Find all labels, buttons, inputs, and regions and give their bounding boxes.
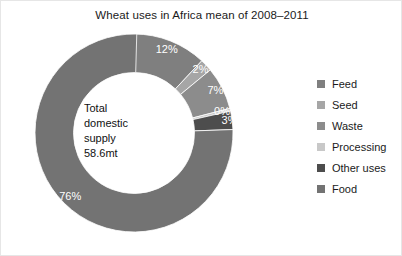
- legend-item[interactable]: Feed: [317, 73, 402, 94]
- legend-item-label: Food: [332, 183, 357, 195]
- center-line-3: supply: [84, 131, 184, 146]
- legend-swatch-icon: [317, 185, 325, 193]
- legend-swatch-icon: [317, 143, 325, 151]
- legend-item[interactable]: Seed: [317, 94, 402, 115]
- legend-item-label: Feed: [332, 78, 357, 90]
- slice-value-label: 76%: [59, 190, 81, 202]
- chart-title: Wheat uses in Africa mean of 2008–2011: [1, 9, 402, 21]
- legend-swatch-icon: [317, 122, 325, 130]
- legend-item[interactable]: Food: [317, 178, 402, 199]
- chart-figure: Wheat uses in Africa mean of 2008–2011 1…: [0, 0, 402, 256]
- legend-item[interactable]: Processing: [317, 136, 402, 157]
- legend-item-label: Other uses: [332, 162, 386, 174]
- slice-value-label: 12%: [156, 43, 178, 55]
- legend-item-label: Seed: [332, 99, 358, 111]
- legend-item[interactable]: Waste: [317, 115, 402, 136]
- legend-swatch-icon: [317, 101, 325, 109]
- center-line-1: Total: [84, 101, 184, 116]
- legend-item[interactable]: Other uses: [317, 157, 402, 178]
- legend-swatch-icon: [317, 164, 325, 172]
- slice-value-label: 7%: [207, 84, 223, 96]
- slice-value-label: 3%: [222, 114, 234, 126]
- center-line-2: domestic: [84, 116, 184, 131]
- legend-item-label: Waste: [332, 120, 363, 132]
- chart-legend: FeedSeedWasteProcessingOther usesFood: [317, 73, 402, 199]
- slice-value-label: 2%: [193, 63, 209, 75]
- center-annotation: Total domestic supply 58.6mt: [84, 101, 184, 161]
- legend-item-label: Processing: [332, 141, 386, 153]
- center-line-4: 58.6mt: [84, 146, 184, 161]
- legend-swatch-icon: [317, 80, 325, 88]
